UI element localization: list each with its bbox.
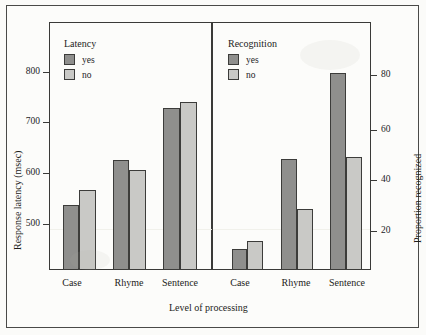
latency-tick-500 xyxy=(43,224,49,225)
recognition-tick-label-60: 60 xyxy=(381,124,401,134)
bar-recognition-sentence-no xyxy=(346,157,362,270)
bar-recognition-case-yes xyxy=(232,249,247,270)
legend-swatch-light-icon xyxy=(64,69,75,80)
recognition-legend: Recognition yes no xyxy=(228,38,277,84)
bar-recognition-sentence-yes xyxy=(330,73,346,270)
recognition-tick-label-40: 40 xyxy=(381,174,401,184)
x-axis-title: Level of processing xyxy=(169,302,248,313)
latency-legend: Latency yes no xyxy=(64,38,96,84)
bar-latency-case-no xyxy=(79,190,96,270)
recognition-category-sentence: Sentence xyxy=(318,277,376,288)
latency-tick-label-800: 800 xyxy=(14,66,40,76)
bar-recognition-rhyme-yes xyxy=(281,159,297,270)
latency-category-sentence: Sentence xyxy=(151,277,209,288)
recognition-tick-label-80: 80 xyxy=(381,69,401,79)
latency-tick-label-700: 700 xyxy=(14,116,40,126)
latency-legend-label-no: no xyxy=(82,70,92,80)
latency-category-case: Case xyxy=(51,277,93,288)
recognition-tick-60 xyxy=(371,130,377,131)
recognition-legend-row-no: no xyxy=(228,69,277,80)
bar-latency-sentence-yes xyxy=(163,108,180,270)
latency-legend-label-yes: yes xyxy=(82,55,95,65)
recognition-axis-title: Proportion recognized xyxy=(412,154,423,243)
recognition-legend-title: Recognition xyxy=(228,38,277,49)
legend-swatch-dark-icon xyxy=(228,54,239,65)
latency-legend-title: Latency xyxy=(64,38,96,49)
recognition-tick-label-20: 20 xyxy=(381,225,401,235)
latency-legend-row-yes: yes xyxy=(64,54,96,65)
latency-legend-row-no: no xyxy=(64,69,96,80)
recognition-tick-20 xyxy=(371,231,377,232)
legend-swatch-dark-icon xyxy=(64,54,75,65)
recognition-legend-row-yes: yes xyxy=(228,54,277,65)
latency-axis-title: Response latency (msec) xyxy=(12,151,23,250)
bar-latency-rhyme-yes xyxy=(113,160,129,270)
recognition-category-case: Case xyxy=(219,277,261,288)
figure-root: 800 700 600 500 Response latency (msec) … xyxy=(0,0,426,335)
bar-recognition-rhyme-no xyxy=(297,209,313,270)
bar-latency-sentence-no xyxy=(180,102,197,270)
recognition-legend-label-no: no xyxy=(246,70,256,80)
recognition-category-rhyme: Rhyme xyxy=(273,277,319,288)
latency-tick-700 xyxy=(43,122,49,123)
recognition-tick-40 xyxy=(371,180,377,181)
latency-tick-600 xyxy=(43,173,49,174)
bar-recognition-case-no xyxy=(247,241,263,270)
latency-tick-800 xyxy=(43,72,49,73)
bar-latency-case-yes xyxy=(63,205,79,270)
latency-category-rhyme: Rhyme xyxy=(106,277,152,288)
recognition-tick-80 xyxy=(371,75,377,76)
bar-latency-rhyme-no xyxy=(129,170,146,270)
recognition-legend-label-yes: yes xyxy=(246,55,259,65)
legend-swatch-light-icon xyxy=(228,69,239,80)
